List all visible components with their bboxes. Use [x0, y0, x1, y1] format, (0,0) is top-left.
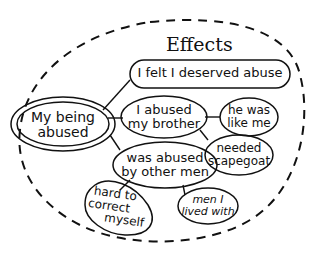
node-like-me-line1: he was — [222, 104, 276, 117]
node-scapegoat: needed scapegoat — [206, 142, 272, 167]
node-correct: hard to correct myself — [86, 184, 151, 230]
node-scapegoat-line1: needed — [206, 142, 272, 155]
node-other-men: was abused by other men — [115, 151, 215, 178]
node-abused-brother: I abused my brother — [124, 103, 204, 130]
root-node-label: My being abused — [20, 110, 106, 139]
root-line1: My being — [20, 110, 106, 125]
node-like-me: he was like me — [222, 104, 276, 129]
diagram-title: Effects — [166, 33, 233, 55]
node-like-me-line2: like me — [222, 117, 276, 130]
node-other-men-line1: was abused — [115, 151, 215, 165]
node-lived-with: men I lived with — [180, 194, 236, 217]
node-deserved-line1: I felt I deserved abuse — [132, 66, 288, 80]
node-deserved: I felt I deserved abuse — [132, 66, 288, 80]
root-line2: abused — [20, 125, 106, 140]
node-lived-with-line1: men I — [180, 194, 236, 206]
node-abused-brother-line1: I abused — [124, 103, 204, 117]
node-lived-with-line2: lived with — [180, 206, 236, 218]
node-other-men-line2: by other men — [115, 165, 215, 179]
node-abused-brother-line2: my brother — [124, 117, 204, 131]
node-scapegoat-line2: scapegoat — [206, 155, 272, 168]
